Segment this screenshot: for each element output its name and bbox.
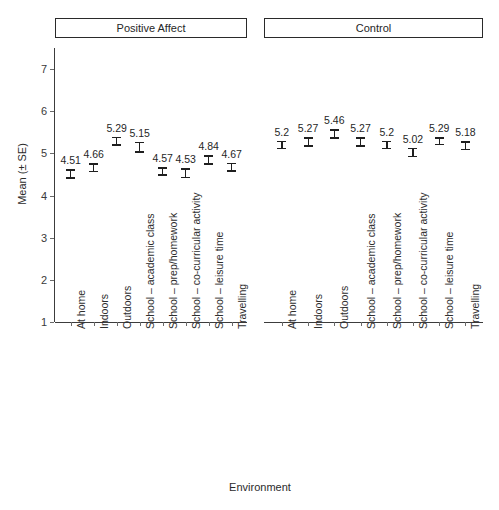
data-value-label: 5.29 bbox=[429, 122, 449, 134]
error-bar-cap-bottom bbox=[181, 177, 190, 179]
y-tick-mark bbox=[50, 111, 54, 112]
data-value-label: 4.66 bbox=[83, 148, 103, 160]
x-tick-mark bbox=[232, 322, 233, 326]
x-tick-label: At home bbox=[75, 290, 87, 329]
x-tick-label: Indoors bbox=[312, 294, 324, 329]
error-bar-cap-bottom bbox=[461, 149, 470, 151]
x-tick-mark bbox=[413, 322, 414, 326]
x-tick-label: School – prep/homework bbox=[167, 213, 179, 329]
data-value-label: 5.2 bbox=[379, 126, 394, 138]
x-tick-mark bbox=[282, 322, 283, 326]
x-tick-label: Indoors bbox=[98, 294, 110, 329]
error-bar-cap-top bbox=[181, 168, 190, 170]
y-tick-mark bbox=[50, 69, 54, 70]
x-tick-label: School – leisure time bbox=[213, 232, 225, 329]
x-tick-mark bbox=[308, 322, 309, 326]
x-tick-label: At home bbox=[286, 290, 298, 329]
x-tick-mark bbox=[361, 322, 362, 326]
data-value-label: 5.02 bbox=[403, 133, 423, 145]
error-bar-cap-bottom bbox=[330, 137, 339, 139]
x-tick-label: School – co-curricular activity bbox=[190, 192, 202, 329]
y-tick-mark bbox=[50, 280, 54, 281]
error-bar-cap-top bbox=[382, 141, 391, 143]
error-bar-cap-bottom bbox=[66, 177, 75, 179]
error-bar bbox=[181, 168, 190, 178]
error-bar-cap-bottom bbox=[304, 145, 313, 147]
error-bar-cap-top bbox=[330, 129, 339, 131]
error-bar-cap-bottom bbox=[112, 144, 121, 146]
error-bar-cap-bottom bbox=[408, 156, 417, 158]
x-tick-label: School – academic class bbox=[144, 213, 156, 329]
error-bar-cap-top bbox=[135, 142, 144, 144]
data-value-label: 4.53 bbox=[175, 153, 195, 165]
error-bar-cap-bottom bbox=[277, 148, 286, 150]
x-tick-label: Travelling bbox=[236, 284, 248, 329]
error-bar bbox=[408, 148, 417, 157]
error-bar-cap-top bbox=[461, 141, 470, 143]
data-value-label: 5.15 bbox=[129, 127, 149, 139]
error-bar-cap-top bbox=[304, 137, 313, 139]
y-tick-label: 2 bbox=[29, 274, 47, 286]
error-bar-cap-top bbox=[89, 163, 98, 165]
error-bar bbox=[112, 137, 121, 146]
error-bar bbox=[135, 142, 144, 153]
x-tick-mark bbox=[186, 322, 187, 326]
error-bar bbox=[89, 163, 98, 172]
error-bar-cap-bottom bbox=[204, 163, 213, 165]
error-bar bbox=[330, 129, 339, 138]
y-tick-mark bbox=[50, 238, 54, 239]
error-bar-cap-bottom bbox=[356, 145, 365, 147]
error-bar-cap-bottom bbox=[227, 170, 236, 172]
data-value-label: 5.46 bbox=[324, 114, 344, 126]
error-bar bbox=[461, 141, 470, 150]
error-bar-cap-top bbox=[277, 141, 286, 143]
error-bar-cap-bottom bbox=[435, 144, 444, 146]
error-bar bbox=[435, 137, 444, 145]
y-tick-label: 5 bbox=[29, 147, 47, 159]
error-bar bbox=[204, 155, 213, 164]
error-bar-cap-bottom bbox=[382, 148, 391, 150]
y-tick-label: 4 bbox=[29, 190, 47, 202]
error-bar bbox=[227, 163, 236, 172]
x-tick-label: School – academic class bbox=[365, 213, 377, 329]
y-tick-label: 3 bbox=[29, 232, 47, 244]
x-axis-title: Environment bbox=[180, 481, 340, 493]
error-bar bbox=[66, 169, 75, 178]
x-tick-label: Outdoors bbox=[121, 286, 133, 329]
data-value-label: 5.27 bbox=[298, 122, 318, 134]
data-value-label: 5.18 bbox=[455, 126, 475, 138]
x-tick-mark bbox=[94, 322, 95, 326]
error-bar-cap-top bbox=[356, 137, 365, 139]
data-value-label: 4.84 bbox=[198, 140, 218, 152]
error-bar-cap-top bbox=[112, 137, 121, 139]
error-bar bbox=[304, 137, 313, 146]
x-tick-mark bbox=[439, 322, 440, 326]
error-bar-cap-top bbox=[227, 163, 236, 165]
y-tick-mark bbox=[50, 322, 54, 323]
y-axis-title: Mean (± SE) bbox=[16, 114, 28, 234]
data-value-label: 4.57 bbox=[152, 152, 172, 164]
error-bar-cap-bottom bbox=[89, 171, 98, 173]
x-tick-label: School – leisure time bbox=[443, 232, 455, 329]
panel-control: ControlAt home5.2Indoors5.27Outdoors5.46… bbox=[264, 48, 483, 322]
error-bar bbox=[356, 137, 365, 147]
error-bar-cap-top bbox=[204, 155, 213, 157]
x-tick-mark bbox=[209, 322, 210, 326]
y-tick-label: 6 bbox=[29, 105, 47, 117]
x-tick-mark bbox=[163, 322, 164, 326]
panel-positive-affect: Positive AffectAt home4.51Indoors4.66Out… bbox=[55, 48, 247, 322]
x-tick-label: School – co-curricular activity bbox=[417, 192, 429, 329]
error-bar-cap-top bbox=[408, 148, 417, 150]
x-tick-mark bbox=[71, 322, 72, 326]
y-tick-mark bbox=[50, 153, 54, 154]
error-bar bbox=[382, 141, 391, 149]
panel-strip-label: Positive Affect bbox=[55, 18, 247, 38]
x-tick-mark bbox=[334, 322, 335, 326]
error-bar-cap-bottom bbox=[158, 174, 167, 176]
y-tick-mark bbox=[50, 196, 54, 197]
error-bar-cap-top bbox=[66, 169, 75, 171]
data-value-label: 4.51 bbox=[60, 154, 80, 166]
error-bar-cap-bottom bbox=[135, 151, 144, 153]
x-tick-label: Outdoors bbox=[338, 286, 350, 329]
y-tick-label: 1 bbox=[29, 316, 47, 328]
